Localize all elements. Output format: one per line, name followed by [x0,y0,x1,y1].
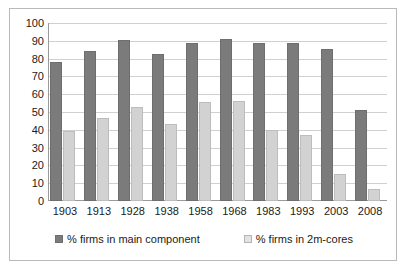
legend-label-main-component: % firms in main component [67,233,200,245]
y-axis-tick-label: 10 [10,178,44,189]
bar-2m-cores [300,135,312,201]
bar-2m-cores [266,130,278,201]
bar-2m-cores [368,189,380,201]
x-axis-tick-label: 1968 [218,205,252,218]
bar-group [150,23,184,201]
x-axis-tick-label: 2003 [319,205,353,218]
legend-swatch-icon-2m-cores [244,235,252,243]
x-axis-tick-label: 1903 [48,205,82,218]
y-axis-tick-label: 60 [10,89,44,100]
bar-2m-cores [199,102,211,201]
chart-container: 1009080706050403020100 19031913192819381… [9,8,397,261]
bar-main-component [118,40,130,201]
bar-group [116,23,150,201]
bar-2m-cores [63,131,75,201]
bar-group [218,23,252,201]
bar-2m-cores [131,107,143,201]
bar-main-component [355,110,367,201]
y-axis-tick-label: 50 [10,107,44,118]
bar-2m-cores [334,174,346,201]
bar-main-component [84,51,96,201]
bar-main-component [220,39,232,201]
bar-group [251,23,285,201]
y-axis-tick-label: 100 [10,18,44,29]
x-axis-tick-label: 1928 [116,205,150,218]
y-axis-tick-label: 80 [10,54,44,65]
plot-wrapper: 1009080706050403020100 19031913192819381… [10,9,398,262]
y-axis-tick-label: 0 [10,196,44,207]
bar-main-component [253,43,265,201]
bar-group [48,23,82,201]
y-axis-tick-label: 40 [10,125,44,136]
bar-group [353,23,387,201]
chart-legend: % firms in main component % firms in 2m-… [10,228,398,250]
bar-main-component [186,43,198,201]
y-axis-tick-label: 30 [10,143,44,154]
bar-main-component [321,49,333,201]
x-axis-tick-label: 1958 [184,205,218,218]
bar-group [82,23,116,201]
x-axis: 1903191319281938195819681983199320032008 [48,205,387,221]
legend-swatch-icon-main-component [55,235,63,243]
y-axis: 1009080706050403020100 [10,23,44,201]
legend-item-2m-cores: % firms in 2m-cores [244,233,353,245]
bar-2m-cores [165,124,177,201]
bar-group [285,23,319,201]
bars-layer [48,23,387,201]
y-axis-tick-label: 20 [10,160,44,171]
bar-main-component [50,62,62,201]
bar-main-component [152,54,164,201]
bar-group [184,23,218,201]
y-axis-tick-label: 70 [10,71,44,82]
x-axis-tick-label: 1913 [82,205,116,218]
x-axis-tick-label: 1983 [251,205,285,218]
x-axis-tick-label: 1938 [150,205,184,218]
bar-2m-cores [233,101,245,201]
legend-item-main-component: % firms in main component [55,233,200,245]
x-axis-tick-label: 1993 [285,205,319,218]
x-axis-tick-label: 2008 [353,205,387,218]
bar-group [319,23,353,201]
bar-main-component [287,43,299,201]
bar-2m-cores [97,118,109,201]
legend-label-2m-cores: % firms in 2m-cores [256,233,353,245]
y-axis-tick-label: 90 [10,36,44,47]
